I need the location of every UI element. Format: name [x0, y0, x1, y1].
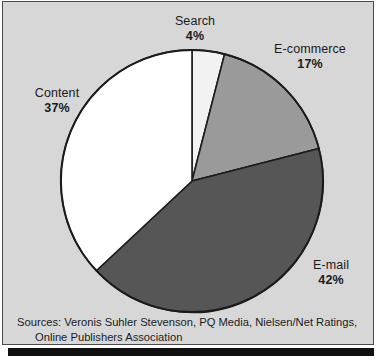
pie-label-content-name: Content	[11, 86, 103, 101]
pie-label-search-value: 4%	[145, 29, 245, 44]
pie-label-search: Search 4%	[145, 14, 245, 43]
sources-line-1: Sources: Veronis Suhler Stevenson, PQ Me…	[17, 316, 357, 328]
pie-label-email-value: 42%	[289, 273, 373, 288]
pie-label-ecommerce-name: E-commerce	[251, 42, 369, 57]
bottom-rule	[8, 348, 374, 356]
sources-line-2: Online Publishers Association	[17, 330, 367, 345]
pie-label-ecommerce: E-commerce 17%	[251, 42, 369, 71]
pie-label-content-value: 37%	[11, 101, 103, 116]
pie-label-email-name: E-mail	[289, 258, 373, 273]
pie-label-content: Content 37%	[11, 86, 103, 115]
chart-panel: Search 4% E-commerce 17% Content 37% E-m…	[2, 1, 374, 345]
pie-label-search-name: Search	[145, 14, 245, 29]
pie-chart-figure: Search 4% E-commerce 17% Content 37% E-m…	[0, 0, 378, 360]
pie-label-email: E-mail 42%	[289, 258, 373, 287]
pie-label-ecommerce-value: 17%	[251, 57, 369, 72]
sources-note: Sources: Veronis Suhler Stevenson, PQ Me…	[17, 315, 367, 345]
